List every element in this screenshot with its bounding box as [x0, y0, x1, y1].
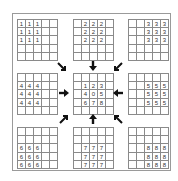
grid-cell: [98, 128, 106, 136]
grid-cell: [106, 144, 114, 152]
grid-cell: [129, 153, 137, 161]
grid-cell: 4: [26, 90, 34, 98]
grid-cell: 1: [34, 28, 42, 36]
grid-cell: [98, 136, 106, 144]
grid-cell: [129, 107, 137, 115]
grid-cell: [74, 107, 82, 115]
arrow-up-left-icon: [113, 114, 123, 124]
grid-cell: [42, 99, 50, 107]
grid-cell: [42, 144, 50, 152]
grid-cell: [42, 20, 50, 28]
grid-cell: [26, 107, 34, 115]
grid-cell: [106, 45, 114, 53]
grid-g7: 777777777: [73, 127, 114, 169]
grid-cell: [137, 74, 145, 82]
grid-cell: [161, 45, 169, 53]
grid-cell: [18, 107, 26, 115]
grid-cell: [145, 136, 153, 144]
grid-cell: 3: [145, 28, 153, 36]
grid-cell: 3: [161, 20, 169, 28]
grid-cell: [129, 90, 137, 98]
grid-g1: 111111111: [17, 19, 58, 61]
grid-cell: [26, 136, 34, 144]
grid-cell: [153, 107, 161, 115]
grid-cell: [42, 161, 50, 169]
arrow-right-icon: [59, 88, 69, 98]
grid-cell: [153, 74, 161, 82]
grid-cell: [50, 136, 58, 144]
grid-cell: [34, 128, 42, 136]
grid-cell: 8: [153, 161, 161, 169]
grid-cell: [129, 36, 137, 44]
grid-cell: 2: [98, 36, 106, 44]
grid-cell: [50, 45, 58, 53]
grid-cell: 4: [26, 99, 34, 107]
grid-cell: [106, 99, 114, 107]
grid-cell: [129, 136, 137, 144]
grid-cell: [50, 161, 58, 169]
grid-cell: 5: [161, 82, 169, 90]
grid-cell: [145, 53, 153, 61]
grid-cell: [42, 36, 50, 44]
grid-g8: 888888888: [128, 127, 169, 169]
grid-cell: 4: [34, 90, 42, 98]
grid-cell: 2: [82, 28, 90, 36]
grid-cell: 1: [18, 20, 26, 28]
grid-cell: [90, 136, 98, 144]
grid-cell: [82, 136, 90, 144]
grid-cell: 2: [98, 28, 106, 36]
grid-cell: [106, 128, 114, 136]
arrow-down-left-icon: [113, 62, 123, 72]
grid-cell: [50, 36, 58, 44]
grid-cell: [50, 74, 58, 82]
grid-cell: [137, 161, 145, 169]
grid-cell: [18, 136, 26, 144]
grid-cell: [34, 53, 42, 61]
grid-cell: [50, 153, 58, 161]
grid-cell: 8: [153, 144, 161, 152]
grid-cell: [137, 153, 145, 161]
grid-cell: 5: [145, 99, 153, 107]
grid-cell: [34, 107, 42, 115]
grid-cell: 6: [82, 99, 90, 107]
grid-cell: [42, 28, 50, 36]
grid-cell: 1: [18, 28, 26, 36]
grid-cell: [98, 107, 106, 115]
grid-cell: [50, 20, 58, 28]
grid-cell: [137, 82, 145, 90]
grid-cell: [145, 107, 153, 115]
grid-cell: [42, 136, 50, 144]
grid-cell: [74, 20, 82, 28]
grid-cell: 3: [153, 36, 161, 44]
grid-cell: [74, 53, 82, 61]
grid-cell: [74, 128, 82, 136]
grid-cell: [50, 144, 58, 152]
grid-cell: 5: [145, 90, 153, 98]
grid-cell: 6: [34, 161, 42, 169]
grid-cell: [74, 161, 82, 169]
arrow-down-right-icon: [57, 62, 67, 72]
grid-cell: 3: [161, 36, 169, 44]
grid-cell: [129, 99, 137, 107]
grid-cell: 2: [90, 20, 98, 28]
grid-cell: 6: [26, 161, 34, 169]
grid-cell: 5: [153, 99, 161, 107]
grid-cell: [18, 74, 26, 82]
grid-cell: [90, 45, 98, 53]
grid-cell: 6: [34, 153, 42, 161]
grid-cell: 1: [26, 36, 34, 44]
grid-cell: 7: [98, 144, 106, 152]
arrow-left-icon: [113, 88, 123, 98]
grid-cell: [137, 53, 145, 61]
grid-cell: 4: [18, 99, 26, 107]
grid-cell: 7: [90, 161, 98, 169]
grid-cell: [129, 144, 137, 152]
grid-cell: 3: [98, 82, 106, 90]
grid-cell: [74, 153, 82, 161]
grid-cell: 4: [18, 90, 26, 98]
grid-cell: [137, 136, 145, 144]
grid-cell: [18, 128, 26, 136]
grid-cell: [74, 45, 82, 53]
grid-cell: [82, 128, 90, 136]
grid-cell: [161, 136, 169, 144]
